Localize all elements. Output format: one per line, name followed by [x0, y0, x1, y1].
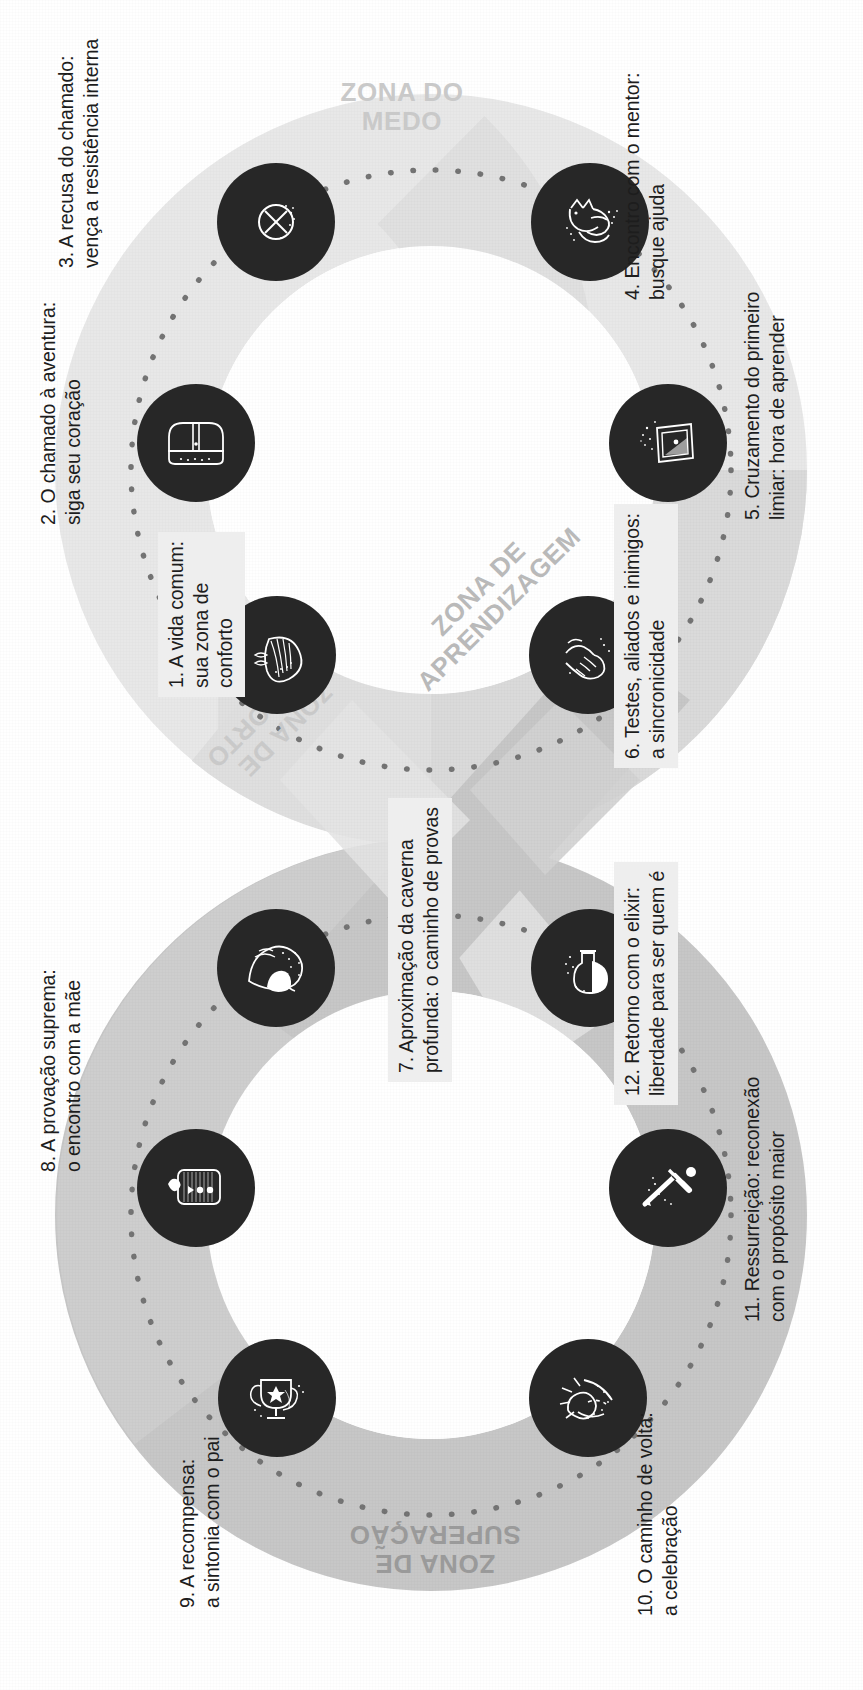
step-label-3-line1: 3. A recusa do chamado: [55, 56, 77, 268]
sword-icon [635, 1160, 701, 1216]
step-label-2-line1: 2. O chamado à aventura: [37, 302, 59, 525]
step-node-9[interactable] [218, 1339, 336, 1457]
step-node-2[interactable] [137, 384, 255, 502]
step-label-10-line1: 10. O caminho de volta: [634, 1412, 656, 1616]
treasure-chest-icon [161, 415, 231, 471]
trophy-icon [243, 1368, 311, 1428]
step-label-12: 12. Retorno com o elixir: liberdade para… [614, 862, 678, 1105]
step-node-7[interactable] [217, 909, 335, 1027]
step-label-11: 11. Ressurreição: reconexão com o propós… [740, 1077, 791, 1322]
step-label-9-line2: a sintonia com o pai [200, 1437, 225, 1608]
step-label-2-line2: siga seu coração [61, 302, 86, 525]
step-node-11[interactable] [609, 1129, 727, 1247]
step-label-7: 7. Aproximação da caverna profunda: o ca… [388, 798, 452, 1082]
zone-label-medo: ZONA DO MEDO [292, 78, 512, 136]
step-label-7-line1: 7. Aproximação da caverna [395, 839, 417, 1073]
step-label-4-line1: 4. Encontro com o mentor: [621, 73, 643, 300]
no-entry-icon [246, 192, 306, 252]
step-label-8-line2: o encontro com a mãe [61, 969, 86, 1172]
cocoon-icon [162, 1162, 230, 1214]
step-label-7-line2: profunda: o caminho de provas [419, 807, 444, 1073]
step-label-11-line1: 11. Ressurreição: reconexão [741, 1077, 763, 1322]
cave-icon [241, 937, 311, 999]
shell-icon [245, 625, 309, 685]
step-label-8-line1: 8. A provação suprema: [37, 969, 59, 1172]
step-label-4: 4. Encontro com o mentor: busque ajuda [620, 73, 671, 300]
shooting-star-icon [554, 1368, 622, 1428]
owl-icon [557, 192, 623, 252]
step-label-5-line2: limiar: hora de aprender [765, 292, 790, 520]
step-label-12-line1: 12. Retorno com o elixir: [621, 887, 643, 1096]
elixir-flask-icon [558, 939, 622, 997]
step-label-1-line3: conforto [213, 541, 238, 688]
step-label-1-line2: sua zona de [189, 541, 214, 688]
step-label-6: 6. Testes, aliados e inimigos: a sincron… [614, 504, 678, 768]
step-label-1: 1. A vida comum: sua zona de conforto [158, 532, 245, 697]
step-label-10-line2: a celebração [658, 1412, 683, 1616]
zone-superacao-line2: SUPERAÇÃO [349, 1520, 521, 1550]
hero-journey-diagram: ZONA DO MEDO ZONA DE APRENDIZAGEM ZONA D… [0, 0, 863, 1690]
step-label-2: 2. O chamado à aventura: siga seu coraçã… [36, 302, 87, 525]
step-label-6-line2: a sincronicidade [645, 513, 670, 759]
step-label-3: 3. A recusa do chamado: vença a resistên… [54, 39, 105, 268]
step-label-8: 8. A provação suprema: o encontro com a … [36, 969, 87, 1172]
zone-superacao-line1: ZONA DE [375, 1549, 495, 1579]
step-label-9: 9. A recompensa: a sintonia com o pai [175, 1437, 226, 1608]
step-node-3[interactable] [217, 163, 335, 281]
zone-medo-line1: ZONA DO [340, 77, 463, 107]
step-label-10: 10. O caminho de volta: a celebração [633, 1412, 684, 1616]
step-label-12-line2: liberdade para ser quem é [645, 871, 670, 1096]
handshake-icon [556, 625, 620, 685]
step-node-8[interactable] [137, 1129, 255, 1247]
step-label-4-line2: busque ajuda [645, 73, 670, 300]
step-label-5: 5. Cruzamento do primeiro limiar: hora d… [740, 292, 791, 520]
step-label-1-line1: 1. A vida comum: [165, 541, 187, 688]
step-label-6-line1: 6. Testes, aliados e inimigos: [621, 513, 643, 759]
step-node-5[interactable] [609, 384, 727, 502]
step-label-5-line1: 5. Cruzamento do primeiro [741, 292, 763, 520]
zone-medo-line2: MEDO [362, 106, 442, 136]
step-label-3-line2: vença a resistência interna [79, 39, 104, 268]
step-label-9-line1: 9. A recompensa: [176, 1459, 198, 1608]
step-label-11-line2: com o propósito maior [765, 1077, 790, 1322]
step-node-10[interactable] [529, 1339, 647, 1457]
zone-label-superacao: ZONA DE SUPERAÇÃO [320, 1520, 550, 1578]
portal-door-icon [635, 414, 701, 472]
